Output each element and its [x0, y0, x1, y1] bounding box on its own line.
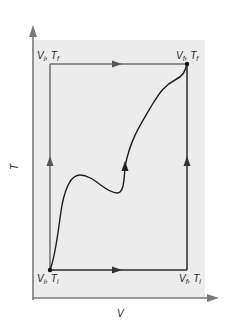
x-axis-arrow-icon: [207, 294, 219, 302]
point-initial: [48, 268, 52, 272]
plot-area: [33, 40, 205, 298]
label-bottom-right: Vf, Ti: [179, 274, 201, 285]
x-axis-label: V: [117, 309, 124, 319]
y-axis-label: T: [10, 164, 20, 170]
label-initial: Vi, Ti: [37, 274, 58, 285]
point-final: [185, 62, 189, 66]
y-axis-arrow-icon: [29, 25, 37, 37]
label-final: Vf, Tf: [176, 51, 198, 62]
state-diagram: Vi, Tf Vf, Tf Vi, Ti Vf, Ti T V: [0, 0, 228, 329]
label-top-left: Vi, Tf: [37, 51, 59, 62]
